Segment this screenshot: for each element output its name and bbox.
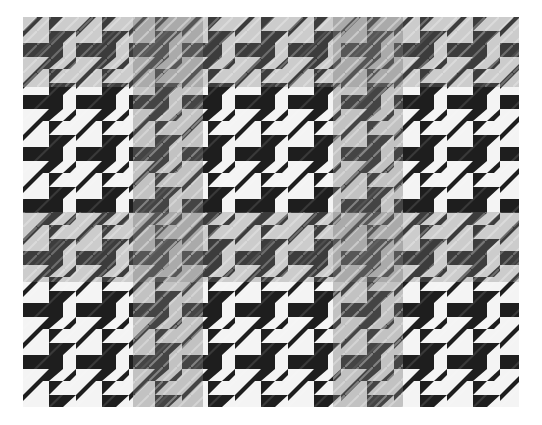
clipped-heading-fragment bbox=[0, 0, 125, 4]
fabric-pattern bbox=[23, 17, 519, 407]
houndstooth-fabric-photo bbox=[23, 17, 519, 407]
